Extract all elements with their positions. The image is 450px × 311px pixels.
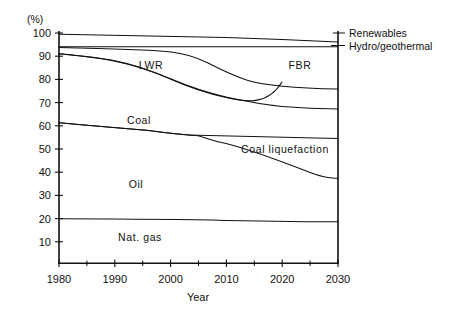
x-tick-label-2030: 2030 <box>326 273 350 285</box>
x-tick-label-1990: 1990 <box>103 273 127 285</box>
series-label-coal-liquefaction: Coal liquefaction <box>241 143 329 155</box>
y-tick-label-60: 60 <box>39 120 51 132</box>
y-tick-label-90: 90 <box>39 50 51 62</box>
y-tick-label-20: 20 <box>39 213 51 225</box>
x-tick-label-2020: 2020 <box>270 273 294 285</box>
series-label-oil: Oil <box>129 178 144 190</box>
series-label-nat-gas: Nat. gas <box>118 231 162 243</box>
energy-share-chart: (%) 100 90 80 70 <box>0 0 450 311</box>
y-tick-label-80: 80 <box>39 73 51 85</box>
y-tick-labels: 100 90 80 70 60 50 40 30 20 10 <box>33 27 51 248</box>
curve-hydro-geothermal-boundary <box>59 34 338 42</box>
x-axis-title: Year <box>187 291 210 303</box>
chart-svg: (%) 100 90 80 70 <box>0 0 450 311</box>
edge-callouts: Renewables Hydro/geothermal <box>331 27 432 52</box>
x-tick-label-1980: 1980 <box>47 273 71 285</box>
curve-coal-upper-boundary <box>59 54 282 101</box>
y-tick-label-50: 50 <box>39 143 51 155</box>
curve-nat-gas-boundary <box>59 219 338 222</box>
y-tick-label-30: 30 <box>39 189 51 201</box>
y-tick-label-100: 100 <box>33 27 51 39</box>
y-tick-label-40: 40 <box>39 166 51 178</box>
x-tick-labels: 1980 1990 2000 2010 2020 2030 <box>47 273 350 285</box>
series-label-fbr: FBR <box>289 59 312 71</box>
edge-label-renewables: Renewables <box>349 27 407 39</box>
series-labels: LWR FBR Coal Coal liquefaction Oil Nat. … <box>118 59 329 243</box>
y-tick-label-70: 70 <box>39 97 51 109</box>
y-axis-unit-label: (%) <box>27 13 43 25</box>
x-tick-label-2000: 2000 <box>158 273 182 285</box>
edge-label-hydro-geothermal: Hydro/geothermal <box>349 40 432 52</box>
x-tick-label-2010: 2010 <box>214 273 238 285</box>
series-label-coal: Coal <box>127 114 151 126</box>
series-label-lwr: LWR <box>139 59 163 71</box>
y-tick-label-10: 10 <box>39 236 51 248</box>
